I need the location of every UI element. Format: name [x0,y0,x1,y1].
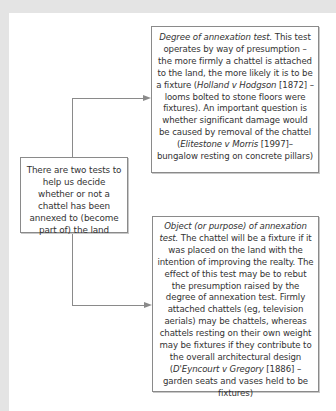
connector-top-horizontal [72,98,144,99]
object-of-annexation-box: Object (or purpose) of annexation test. … [152,216,319,392]
degree-of-annexation-box: Degree of annexation test. This test ope… [151,26,319,173]
test-description: The chattel will be a fixture if it was … [157,233,313,374]
central-concept-text: There are two tests to help us decide wh… [27,165,122,235]
case-name: Holland v Hodgson [197,80,276,90]
case-name: Elitestone v Morris [180,139,258,149]
test-title: Degree of annexation test. [159,32,272,42]
central-concept-box: There are two tests to help us decide wh… [20,157,128,233]
arrow-right-icon [143,95,151,101]
connector-bottom-horizontal [72,305,145,306]
arrow-right-icon [144,302,152,308]
case-name: D'Eyncourt v Gregory [173,364,264,374]
